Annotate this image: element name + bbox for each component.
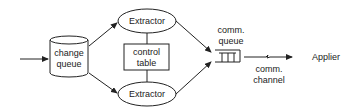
comm-channel: comm. channel (244, 55, 292, 85)
extractor-top: Extractor (118, 9, 176, 33)
control-table-label-2: table (137, 58, 157, 68)
change-queue-label-1: change (54, 48, 84, 58)
comm-queue-label-1: comm. (218, 25, 245, 35)
extractor-bottom: Extractor (118, 82, 176, 106)
extractor-bottom-label: Extractor (129, 89, 165, 99)
extractor-top-label: Extractor (129, 16, 165, 26)
control-table-box: control table (124, 44, 169, 70)
arrow-top-to-queue (176, 21, 211, 52)
comm-channel-label-2: channel (253, 75, 285, 85)
diagram-canvas: change queue Extractor control table Ext… (0, 0, 356, 111)
change-queue-cylinder: change queue (50, 36, 88, 77)
replication-diagram: change queue Extractor control table Ext… (0, 0, 356, 111)
comm-queue: comm. queue (215, 25, 245, 62)
control-table-label-1: control (133, 47, 160, 57)
comm-channel-label-1: comm. (256, 64, 283, 74)
arrow-to-bottom-extractor (89, 73, 117, 93)
arrow-to-top-extractor (89, 23, 117, 46)
arrow-bottom-to-queue (176, 62, 211, 94)
change-queue-label-2: queue (56, 59, 81, 69)
comm-queue-label-2: queue (218, 36, 243, 46)
applier-label: Applier (312, 52, 340, 62)
